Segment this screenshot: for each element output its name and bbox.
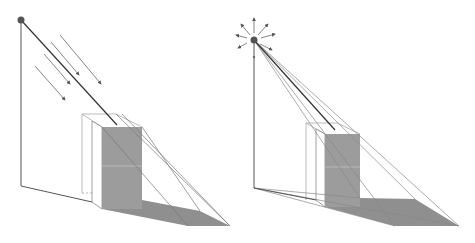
main-light-ray xyxy=(254,40,335,130)
parallel-arrow-icon xyxy=(51,42,79,75)
light-pole xyxy=(254,40,316,200)
radial-arrow-icon xyxy=(261,34,275,38)
diagram-canvas xyxy=(0,0,475,243)
object-front-face xyxy=(102,127,142,209)
radial-arrow-icon xyxy=(258,24,268,35)
radiating-light-source-icon xyxy=(251,37,258,44)
panel-parallel-light xyxy=(18,17,231,227)
radial-light-arrows xyxy=(236,18,275,50)
object-side-slab xyxy=(92,121,102,209)
main-light-ray xyxy=(21,20,117,125)
radial-arrow-icon xyxy=(236,35,247,38)
radial-arrow-icon xyxy=(241,24,250,35)
light-pole xyxy=(21,20,92,202)
pole-marker xyxy=(253,56,255,58)
shadow-projection-diagram xyxy=(0,0,475,243)
panel-point-light xyxy=(236,18,459,226)
parallel-arrow-icon xyxy=(35,66,65,100)
light-source-dot-icon xyxy=(18,17,25,24)
object-side-slab xyxy=(316,129,325,207)
radial-arrow-icon xyxy=(238,43,247,48)
parallel-light-arrows xyxy=(35,35,101,100)
